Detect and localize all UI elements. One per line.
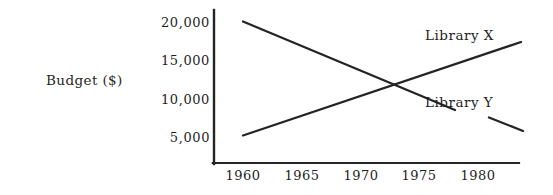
chart-figure: Budget ($) 20,000 15,000 10,000 5,000 19… xyxy=(0,0,553,195)
y-tick-label-10000: 10,000 xyxy=(138,92,210,107)
x-tick-label-1970: 1970 xyxy=(335,168,387,183)
series-label-library-x: Library X xyxy=(425,27,494,43)
x-tick-label-1975: 1975 xyxy=(393,168,445,183)
x-tick-label-1980: 1980 xyxy=(452,168,504,183)
x-tick-label-1960: 1960 xyxy=(217,168,269,183)
y-axis-title: Budget ($) xyxy=(46,72,123,88)
y-tick-label-15000: 15,000 xyxy=(138,53,210,68)
series-label-library-y: Library Y xyxy=(425,94,493,110)
series-line-library-x xyxy=(243,42,521,136)
y-tick-label-20000: 20,000 xyxy=(138,15,210,30)
y-tick-label-5000: 5,000 xyxy=(138,130,210,145)
x-tick-label-1965: 1965 xyxy=(276,168,328,183)
